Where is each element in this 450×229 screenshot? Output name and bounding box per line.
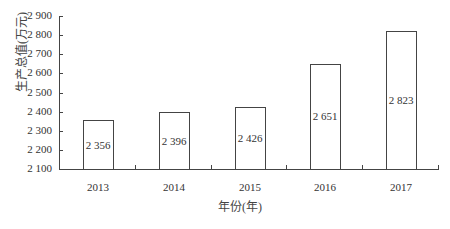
x-tick-mark — [286, 165, 287, 169]
bar-value-label: 2 651 — [305, 111, 345, 122]
x-tick-mark — [362, 165, 363, 169]
x-tick-mark — [135, 165, 136, 169]
y-tick-label: 2 700 — [4, 48, 52, 59]
y-tick-mark — [59, 150, 63, 151]
y-tick-mark — [59, 73, 63, 74]
y-tick-mark — [59, 16, 63, 17]
x-tick-label: 2015 — [230, 182, 270, 193]
x-tick-mark — [438, 165, 439, 169]
y-tick-mark — [59, 112, 63, 113]
y-tick-mark — [59, 35, 63, 36]
y-tick-label: 2 500 — [4, 87, 52, 98]
x-tick-label: 2013 — [78, 182, 118, 193]
y-tick-mark — [59, 169, 63, 170]
y-tick-label: 2 400 — [4, 106, 52, 117]
y-tick-label: 2 600 — [4, 67, 52, 78]
bar-value-label: 2 356 — [78, 140, 118, 151]
bar-chart: 生产总值(万元) 年份(年) 2 1002 2002 3002 4002 500… — [0, 0, 450, 229]
y-tick-mark — [59, 93, 63, 94]
x-tick-label: 2016 — [305, 182, 345, 193]
y-tick-label: 2 300 — [4, 125, 52, 136]
x-tick-mark — [211, 165, 212, 169]
bar-value-label: 2 396 — [154, 136, 194, 147]
y-tick-mark — [59, 54, 63, 55]
y-tick-label: 2 800 — [4, 29, 52, 40]
bar-value-label: 2 426 — [230, 133, 270, 144]
y-tick-label: 2 200 — [4, 144, 52, 155]
x-tick-label: 2017 — [381, 182, 421, 193]
y-tick-label: 2 900 — [4, 10, 52, 21]
x-axis-title: 年份(年) — [218, 197, 262, 215]
x-tick-label: 2014 — [154, 182, 194, 193]
y-tick-label: 2 100 — [4, 163, 52, 174]
bar-value-label: 2 823 — [381, 95, 421, 106]
y-tick-mark — [59, 131, 63, 132]
